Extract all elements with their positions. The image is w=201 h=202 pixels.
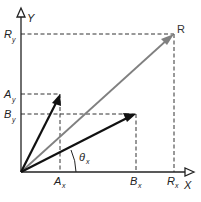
- b-arrowhead-icon: [123, 113, 136, 122]
- bx-sub: x: [137, 182, 142, 189]
- x-axis-arrow-icon: [185, 168, 194, 176]
- theta-sub: x: [85, 158, 90, 165]
- y-axis-label: Y: [27, 12, 35, 24]
- ay-sub: y: [11, 96, 16, 104]
- ry-sub: y: [11, 36, 16, 44]
- ry-label: R: [4, 28, 12, 40]
- bx-label: B: [130, 175, 137, 187]
- by-label: B: [4, 108, 11, 120]
- r-label: R: [177, 23, 185, 35]
- x-axis-label: X: [183, 179, 192, 191]
- by-sub: y: [11, 116, 16, 124]
- a-arrowhead-icon: [52, 94, 61, 106]
- vector-b: [21, 113, 136, 172]
- vector-diagram: Y X R R y A y B y A x B x R x θ x: [0, 0, 201, 202]
- vector-r: [21, 34, 174, 172]
- ay-label: A: [3, 88, 11, 100]
- ax-sub: x: [61, 182, 66, 189]
- vector-a: [21, 94, 61, 172]
- rx-label: R: [167, 175, 175, 187]
- ax-label: A: [53, 175, 61, 187]
- theta-arc: [71, 150, 76, 172]
- rx-sub: x: [174, 182, 179, 189]
- theta-label: θ: [79, 151, 85, 163]
- y-axis-arrow-icon: [17, 8, 25, 17]
